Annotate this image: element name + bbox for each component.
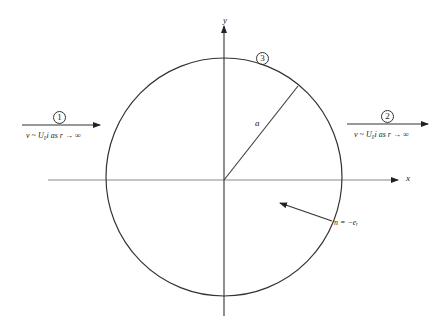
- diagram-canvas: [0, 0, 447, 328]
- normal-label: n = −eᵣ: [334, 218, 358, 227]
- radius-label: a: [255, 118, 260, 128]
- x-axis-label: x: [406, 173, 410, 183]
- y-axis-label: y: [223, 15, 227, 25]
- region-1-condition: v ~ U₀i as r → ∞: [26, 131, 81, 140]
- radius-line: [224, 86, 298, 180]
- region-1-marker: 1: [53, 111, 66, 124]
- normal-arrow: [280, 203, 332, 221]
- region-2-condition: v ~ U₀i as r → ∞: [354, 130, 409, 139]
- region-2-marker: 2: [381, 110, 394, 123]
- region-3-marker: 3: [256, 52, 269, 65]
